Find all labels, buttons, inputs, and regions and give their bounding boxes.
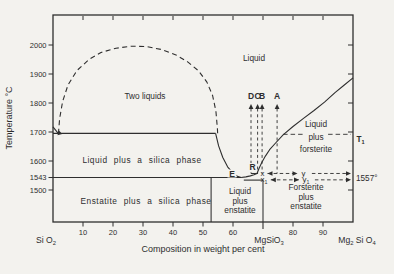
point-R: R [249,162,255,172]
x-tick-label: 60 [229,228,237,237]
label-mg2sio4: Mg2 Si O4 [338,235,376,246]
region-liquid-plus-enstatite: plus [232,196,247,206]
point-E: E [229,169,235,179]
x-tick-label: 20 [109,228,117,237]
y-axis-title: Temperature °C [4,86,14,150]
region-liquid-plus-forsterite: forsterite [300,144,333,154]
region-liquid-plus-enstatite: enstatite [224,205,256,215]
y-tick-label: 1500 [30,186,47,195]
region-liquid-plus-forsterite: plus [308,132,323,142]
region-two-liquids: Two liquids [124,91,165,101]
region-forsterite-plus-enstatite: plus [298,192,313,202]
figure-page: 1020304050608090Si O2MgSiO3Mg2 Si O4Comp… [0,0,394,274]
y-tick-label: 1900 [30,70,47,79]
region-liquid-plus-enstatite: Liquid [229,186,252,196]
x-tick-label: 40 [169,228,177,237]
x-axis-title: Composition in weight per cent [141,244,265,254]
x-tick-label: 80 [289,228,297,237]
marker-label-D: D [248,91,254,101]
region-forsterite-plus-enstatite: enstatite [290,201,322,211]
x-tick-label: 50 [199,228,207,237]
region-liquid-plus-forsterite: Liquid [305,119,328,129]
y-tick-label: 2000 [30,41,47,50]
y-tick-label: 1600 [30,157,47,166]
y-tick-label: 1800 [30,99,47,108]
figure-background [0,0,394,274]
marker-label-B: B [259,91,265,101]
label-1557: 1557° [356,174,378,183]
region-enstatite-plus-silica: Enstatite plus a silica phase [81,196,212,206]
marker-label-A: A [274,91,280,101]
phase-diagram: 1020304050608090Si O2MgSiO3Mg2 Si O4Comp… [0,0,394,274]
x-tick-label: 10 [79,228,87,237]
y-tick-label: 1700 [30,128,47,137]
y-tick-label: 1543 [30,173,47,182]
x-tick-label: 90 [319,228,327,237]
x-tick-label: 30 [139,228,147,237]
region-liquid-plus-silica: Liquid plus a silica phase [82,155,201,165]
region-forsterite-plus-enstatite: Forsterite [288,182,323,192]
region-liquid: Liquid [243,53,266,63]
